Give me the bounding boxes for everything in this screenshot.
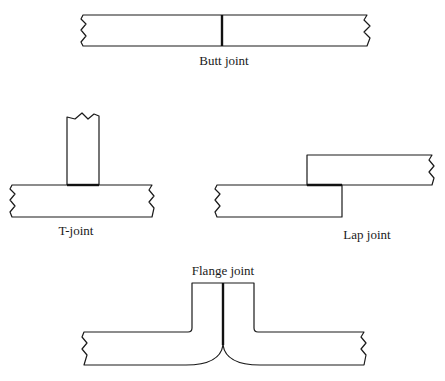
t-joint-figure xyxy=(10,113,154,217)
flange-joint-label: Flange joint xyxy=(192,263,255,278)
t-joint-label: T-joint xyxy=(59,223,94,238)
butt-joint-figure xyxy=(81,15,370,46)
butt-joint-label: Butt joint xyxy=(199,53,249,68)
weld-joints-diagram: Butt joint T-joint Lap joint Flange join… xyxy=(0,0,445,381)
lap-joint-label: Lap joint xyxy=(343,227,391,242)
lap-joint-figure xyxy=(215,155,434,217)
flange-joint-figure xyxy=(82,283,366,365)
